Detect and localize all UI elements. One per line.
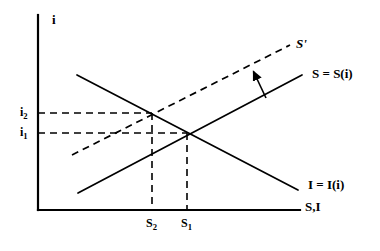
s2-subscript: 2: [153, 222, 157, 232]
s2-base: S: [146, 216, 153, 230]
x-axis-label: S,I: [305, 200, 321, 213]
s1-tick-label: S1: [181, 217, 192, 232]
s1-subscript: 1: [188, 222, 192, 232]
savings-investment-diagram: i S,I S = S(i) S' I = I(i) i2 i1 S2 S1: [0, 0, 380, 251]
diagram-canvas: [0, 0, 380, 251]
y-axis-label: i: [52, 13, 56, 26]
i2-subscript: 2: [23, 111, 27, 121]
savings-curve-label: S = S(i): [312, 67, 353, 80]
investment-curve-label: I = I(i): [308, 178, 344, 191]
i1-subscript: 1: [23, 131, 27, 141]
shift-arrow: [254, 72, 267, 99]
i1-tick-label: i1: [20, 126, 28, 141]
i2-tick-label: i2: [20, 106, 28, 121]
s1-base: S: [181, 216, 188, 230]
savings-curve-shifted-label: S': [296, 37, 307, 50]
s2-tick-label: S2: [146, 217, 157, 232]
